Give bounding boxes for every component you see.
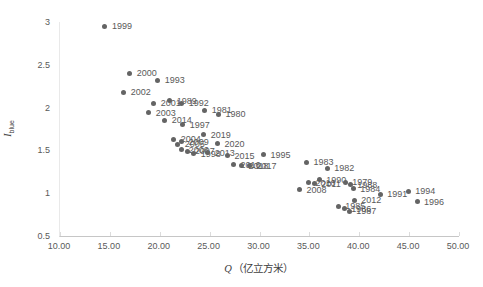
data-point xyxy=(297,187,302,192)
plot-area: 1999200019932002200119891992200319811980… xyxy=(59,22,459,237)
data-point xyxy=(325,166,330,171)
data-point-label: 2000 xyxy=(137,68,157,78)
data-point xyxy=(151,101,156,106)
x-tick-label: 10.00 xyxy=(39,241,79,251)
data-point xyxy=(121,90,126,95)
y-tick-label: 2.5 xyxy=(0,60,52,70)
data-point xyxy=(102,24,107,29)
data-point xyxy=(179,101,184,106)
data-point xyxy=(171,137,176,142)
x-axis-title: Q（亿立方米） xyxy=(59,260,458,275)
x-tick-mark xyxy=(160,232,161,236)
data-point-label: 1996 xyxy=(424,197,444,207)
data-point xyxy=(216,112,221,117)
data-point xyxy=(179,147,184,152)
y-tick-label: 1 xyxy=(0,188,52,198)
x-tick-mark xyxy=(309,232,310,236)
data-point xyxy=(162,118,167,123)
x-tick-mark xyxy=(459,232,460,236)
data-point xyxy=(415,199,420,204)
data-point-label: 1982 xyxy=(334,163,354,173)
data-point xyxy=(261,152,266,157)
data-point-label: 1997 xyxy=(190,120,210,130)
data-point xyxy=(155,78,160,83)
x-tick-label: 25.00 xyxy=(189,241,229,251)
data-point-label: 2008 xyxy=(306,185,326,195)
data-point xyxy=(146,110,151,115)
data-point xyxy=(175,142,180,147)
scatter-chart: Iblue 0.511.522.53 199920001993200220011… xyxy=(0,0,483,287)
x-tick-mark xyxy=(60,232,61,236)
x-tick-mark xyxy=(359,232,360,236)
data-point-label: 1983 xyxy=(313,157,333,167)
data-point xyxy=(215,141,220,146)
y-axis-ticks: 0.511.522.53 xyxy=(0,22,52,236)
data-point xyxy=(378,192,383,197)
x-tick-mark xyxy=(409,232,410,236)
data-point-label: 2002 xyxy=(131,87,151,97)
x-tick-label: 30.00 xyxy=(239,241,279,251)
x-axis-ticks: 10.0015.0020.0025.0030.0035.0040.0045.00… xyxy=(59,241,458,253)
data-point-label: 1993 xyxy=(165,75,185,85)
data-point xyxy=(231,162,236,167)
y-tick-label: 1.5 xyxy=(0,145,52,155)
data-point-label: 1991 xyxy=(387,189,407,199)
data-point-label: 1994 xyxy=(415,186,435,196)
x-axis-unit: （亿立方米） xyxy=(233,262,293,274)
x-tick-mark xyxy=(260,232,261,236)
y-tick-label: 2 xyxy=(0,103,52,113)
x-tick-label: 15.00 xyxy=(89,241,129,251)
x-tick-label: 45.00 xyxy=(388,241,428,251)
data-point xyxy=(180,122,185,127)
data-point xyxy=(406,189,411,194)
x-tick-label: 35.00 xyxy=(288,241,328,251)
data-point-label: 1999 xyxy=(112,21,132,31)
data-point xyxy=(185,149,190,154)
x-tick-mark xyxy=(110,232,111,236)
y-tick-label: 3 xyxy=(0,17,52,27)
data-point-label: 2012 xyxy=(361,195,381,205)
data-point-label: 2017 xyxy=(257,161,277,171)
data-point-label: 1987 xyxy=(356,206,376,216)
data-point-label: 1980 xyxy=(226,109,246,119)
data-point xyxy=(352,198,357,203)
x-tick-label: 40.00 xyxy=(338,241,378,251)
data-point-label: 1995 xyxy=(270,150,290,160)
x-tick-label: 50.00 xyxy=(438,241,478,251)
data-point xyxy=(127,71,132,76)
data-point xyxy=(336,204,341,209)
y-tick-label: 0.5 xyxy=(0,231,52,241)
data-point xyxy=(202,108,207,113)
x-tick-label: 20.00 xyxy=(139,241,179,251)
data-point-label: 1992 xyxy=(189,98,209,108)
data-point xyxy=(304,160,309,165)
x-axis-variable: Q xyxy=(224,263,232,274)
x-tick-mark xyxy=(210,232,211,236)
data-point xyxy=(347,209,352,214)
data-point xyxy=(351,186,356,191)
